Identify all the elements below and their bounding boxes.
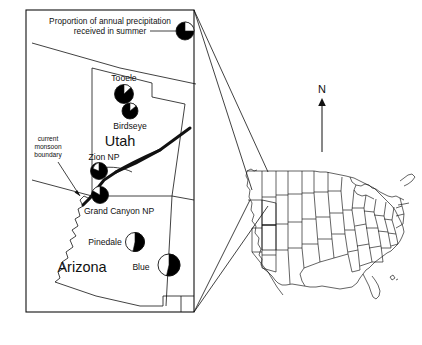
monsoon-label-line2: monsoon	[34, 143, 61, 150]
pie-pinedale	[126, 233, 145, 252]
site-label-grand-canyon-np: Grand Canyon NP	[84, 206, 154, 216]
legend-pie-symbol	[176, 22, 194, 40]
site-label-zion-np: Zion NP	[88, 152, 119, 162]
state-label-arizona: Arizona	[57, 259, 107, 275]
precipitation-map-figure: Proportion of annual precipitation recei…	[0, 0, 422, 345]
pie-grand-canyon-np	[92, 187, 109, 204]
pie-zion-np	[91, 163, 108, 180]
pie-blue	[158, 254, 180, 276]
legend-line2: received in summer	[74, 26, 147, 36]
site-label-blue: Blue	[132, 262, 149, 272]
site-label-tooele: Tooele	[111, 73, 137, 83]
site-label-birdseye: Birdseye	[113, 121, 147, 131]
site-label-pinedale: Pinedale	[88, 237, 122, 247]
state-label-utah: Utah	[105, 133, 136, 149]
monsoon-label-line1: current	[38, 135, 59, 142]
north-arrow-label: N	[318, 83, 326, 95]
pie-tooele	[115, 85, 134, 104]
monsoon-label-line3: boundary	[34, 151, 62, 159]
pie-birdseye	[122, 103, 138, 119]
legend-line1: Proportion of annual precipitation	[49, 16, 171, 26]
